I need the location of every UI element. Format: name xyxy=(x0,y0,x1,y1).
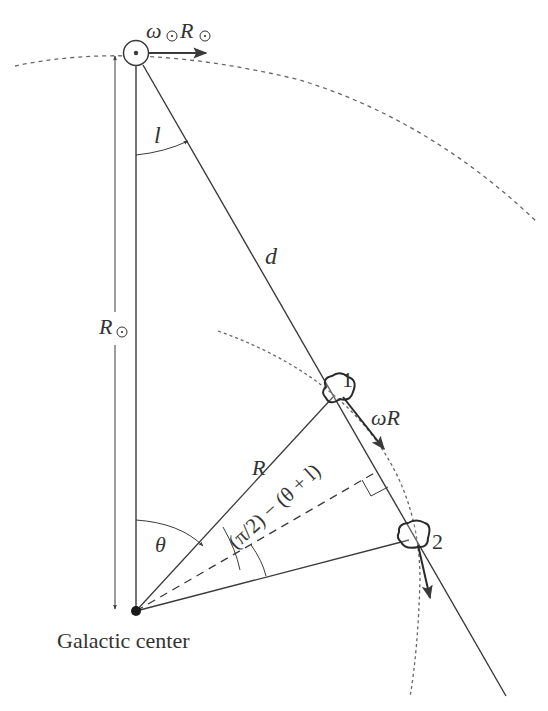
galactic-rotation-diagram: ω R l d R 1 2 ωR R (π/2) − (θ + l) θ Gal… xyxy=(0,0,548,711)
sun-subscript-2 xyxy=(200,31,210,41)
galactic-center-dot xyxy=(131,606,141,616)
right-angle-marker xyxy=(362,480,388,496)
sun-velocity-label: ω xyxy=(146,18,162,43)
angle-expression-label: (π/2) − (θ + l) xyxy=(223,459,325,554)
longitude-angle-arc xyxy=(136,141,188,155)
sun-distance-label: R xyxy=(98,314,113,339)
tangent-dashed-line xyxy=(136,471,378,611)
radius-line-star1 xyxy=(136,397,333,611)
galactic-center-label: Galactic center xyxy=(57,628,190,653)
solar-orbit-arc xyxy=(15,56,537,222)
radius-label: R xyxy=(251,455,266,480)
star2-blob xyxy=(398,521,430,548)
sun-symbol xyxy=(124,41,149,66)
sun-distance-subscript xyxy=(117,327,127,337)
sun-subscript-1 xyxy=(167,31,177,41)
star2-label: 2 xyxy=(432,529,443,554)
radius-line-star2 xyxy=(136,540,409,611)
expression-angle-arc-2 xyxy=(251,545,266,576)
sun-velocity-R-label: R xyxy=(179,18,194,43)
distance-label: d xyxy=(265,243,278,269)
star1-label: 1 xyxy=(342,367,353,392)
longitude-label: l xyxy=(154,122,161,148)
star-velocity-label: ωR xyxy=(371,405,401,430)
theta-angle-arc xyxy=(136,520,203,546)
theta-label: θ xyxy=(155,532,166,557)
